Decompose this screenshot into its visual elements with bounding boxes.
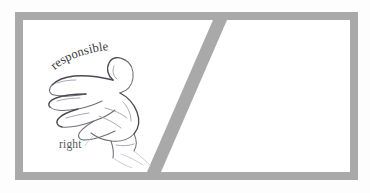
panel-invisible-left: invisible left [190,20,350,172]
panels-container: responsible right [23,20,350,172]
open-hand-palm-up-sketch [33,50,183,168]
panel-responsible-right: responsible right [23,20,183,172]
figure-root: responsible right [0,0,370,193]
